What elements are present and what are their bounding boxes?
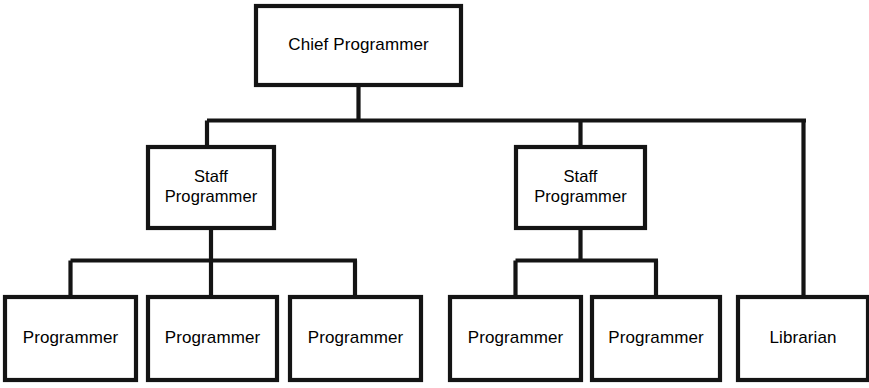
node-staff-programmer-right[interactable]: StaffProgrammer	[516, 147, 645, 228]
node-label-programmer-2: Programmer	[165, 328, 261, 347]
org-chart-diagram: Chief Programmer StaffProgrammer StaffPr…	[0, 0, 869, 388]
node-chief-programmer[interactable]: Chief Programmer	[256, 6, 461, 85]
node-programmer-2[interactable]: Programmer	[148, 297, 277, 380]
node-librarian[interactable]: Librarian	[738, 297, 868, 380]
org-chart-container: Chief Programmer StaffProgrammer StaffPr…	[0, 0, 869, 388]
node-label-programmer-4: Programmer	[468, 328, 564, 347]
node-programmer-4[interactable]: Programmer	[450, 297, 581, 380]
node-label-programmer-3: Programmer	[308, 328, 404, 347]
node-label-chief-programmer: Chief Programmer	[288, 35, 429, 54]
node-label-librarian: Librarian	[769, 328, 836, 347]
node-label-programmer-1: Programmer	[23, 328, 119, 347]
node-programmer-5[interactable]: Programmer	[592, 297, 720, 380]
node-staff-programmer-left[interactable]: StaffProgrammer	[148, 147, 274, 228]
node-programmer-1[interactable]: Programmer	[5, 297, 136, 380]
node-programmer-3[interactable]: Programmer	[290, 297, 421, 380]
node-label-programmer-5: Programmer	[608, 328, 704, 347]
